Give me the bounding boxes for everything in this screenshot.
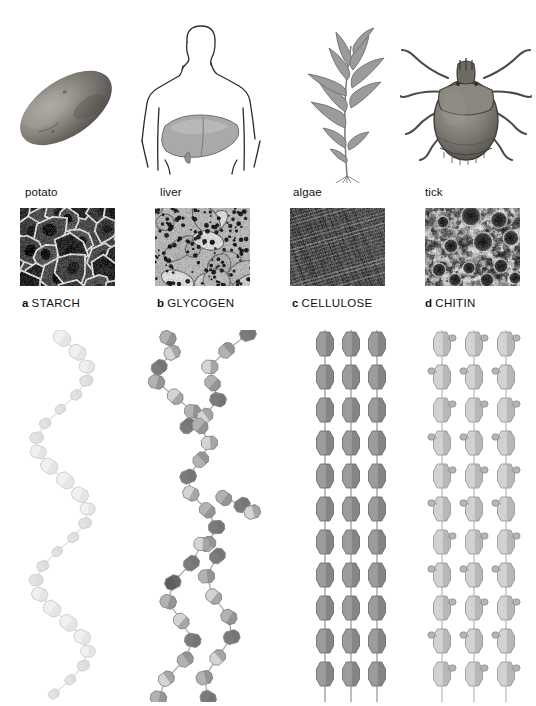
source-label-tick: tick	[425, 186, 443, 198]
panel-letter-d: d	[425, 297, 432, 309]
glycogen-branched-diagram	[125, 330, 257, 702]
human-torso-liver-icon	[135, 8, 267, 183]
micrograph-cellulose	[290, 208, 385, 286]
chitin-parallel-chains-diagram	[418, 330, 536, 702]
algae-icon	[285, 8, 417, 183]
panel-glycogen: liver b GLYCOGEN	[135, 0, 267, 706]
panel-cellulose: algae c CELLULOSE	[285, 0, 417, 706]
panel-label-glycogen: b GLYCOGEN	[157, 297, 234, 309]
tick-icon	[400, 8, 532, 183]
source-label-liver: liver	[160, 186, 182, 198]
panel-name-starch: STARCH	[32, 297, 81, 309]
panel-name-cellulose: CELLULOSE	[302, 297, 373, 309]
panel-chitin: tick d CHITIN	[400, 0, 532, 706]
micrograph-glycogen	[155, 208, 250, 286]
micrograph-chitin	[425, 208, 520, 286]
panel-label-chitin: d CHITIN	[425, 297, 476, 309]
starch-helix-diagram	[0, 330, 132, 702]
liver-shape	[162, 115, 239, 163]
potato-icon	[0, 8, 132, 183]
panel-name-glycogen: GLYCOGEN	[167, 297, 234, 309]
panel-label-cellulose: c CELLULOSE	[292, 297, 373, 309]
panel-label-starch: a STARCH	[22, 297, 80, 309]
panel-name-chitin: CHITIN	[435, 297, 475, 309]
micrograph-starch	[20, 208, 115, 286]
panel-letter-c: c	[292, 297, 298, 309]
cellulose-parallel-chains-diagram	[285, 330, 417, 702]
panel-starch: potato a STARCH	[0, 0, 132, 706]
panel-letter-b: b	[157, 297, 164, 309]
source-label-potato: potato	[25, 186, 58, 198]
source-label-algae: algae	[293, 186, 322, 198]
panel-letter-a: a	[22, 297, 28, 309]
